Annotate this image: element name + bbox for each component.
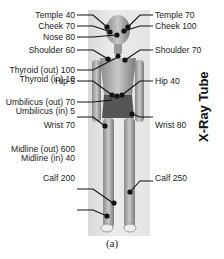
mannequin-figure [0, 0, 224, 259]
label-calf-left: Calf 200 [43, 174, 75, 183]
label-cheek-right: Cheek 100 [155, 22, 197, 31]
label-hip-left: Hip 5 [55, 77, 75, 86]
label-wrist-right: Wrist 80 [155, 121, 186, 130]
label-umbilicus-in: Umbilicus (in) 5 [16, 107, 75, 116]
x-ray-tube-label: X-Ray Tube [196, 71, 211, 142]
label-temple-left: Temple 40 [35, 11, 75, 20]
label-wrist-left: Wrist 70 [44, 121, 75, 130]
label-shoulder-right: Shoulder 70 [155, 46, 201, 55]
label-nose: Nose 80 [43, 33, 75, 42]
label-temple-right: Temple 70 [155, 11, 195, 20]
label-cheek-left: Cheek 70 [38, 22, 75, 31]
label-midline-in: Midline (in) 40 [21, 154, 75, 163]
figure-caption: (a) [0, 237, 224, 249]
label-calf-right: Calf 250 [155, 174, 187, 183]
label-hip-right: Hip 40 [155, 77, 180, 86]
label-shoulder-left: Shoulder 60 [29, 46, 75, 55]
